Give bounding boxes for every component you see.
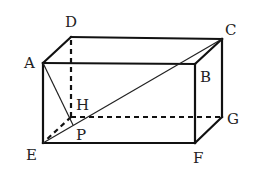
label-A: A: [23, 54, 35, 72]
label-E: E: [26, 146, 37, 164]
edge-BC: [195, 39, 222, 64]
edge-CD: [71, 37, 222, 39]
edge-FG: [195, 117, 222, 143]
label-C: C: [225, 21, 236, 39]
label-D: D: [65, 13, 77, 31]
segment-AP: [43, 63, 73, 125]
label-P: P: [76, 126, 86, 144]
rectangular-prism-diagram: A B C D E F G H P: [0, 0, 260, 179]
label-B: B: [200, 68, 211, 86]
label-F: F: [193, 149, 203, 167]
edge-AB: [43, 63, 195, 64]
label-H: H: [76, 96, 89, 114]
edge-DA: [43, 37, 71, 63]
label-G: G: [227, 110, 239, 128]
